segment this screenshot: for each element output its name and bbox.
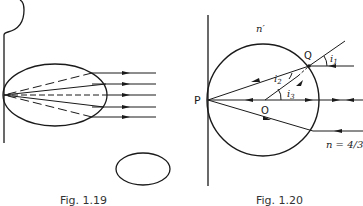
figure-1-19 xyxy=(3,0,170,185)
caption-fig-1-19: Fig. 1.19 xyxy=(60,194,107,206)
label-n-prime: n′ xyxy=(256,23,265,34)
label-i1: i1 xyxy=(330,53,338,66)
label-o: O xyxy=(261,105,269,116)
figure-1-20: P Q O n′ n = 4/3 i1 i2 i3 xyxy=(194,15,363,186)
diagram-canvas: P Q O n′ n = 4/3 i1 i2 i3 xyxy=(0,0,363,206)
label-q: Q xyxy=(304,50,312,61)
small-ellipse xyxy=(116,153,170,185)
ray-arrows xyxy=(122,71,130,119)
label-i3: i3 xyxy=(287,88,295,101)
label-n-outer: n = 4/3 xyxy=(326,139,363,150)
caption-fig-1-20: Fig. 1.20 xyxy=(256,194,303,206)
label-p: P xyxy=(194,94,201,107)
incident-rays xyxy=(4,73,156,117)
